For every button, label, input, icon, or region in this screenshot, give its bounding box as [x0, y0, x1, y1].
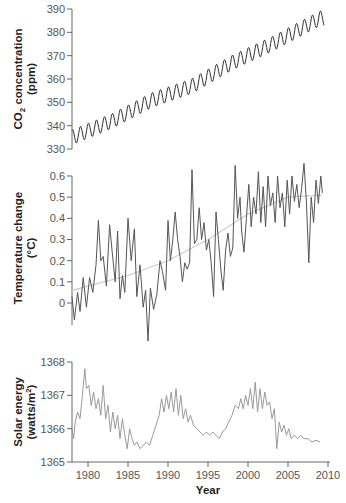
y-tick-label: 0.1: [50, 276, 65, 288]
y-tick-label: 0.5: [50, 191, 65, 203]
solar-ylabel: Solar energy: [12, 377, 24, 447]
solar-y-ticks: 1365136613671368: [41, 356, 72, 468]
x-tick-label: 2005: [276, 469, 300, 481]
x-tick-label: 1995: [196, 469, 220, 481]
solar-panel: 1365136613671368 19801985199019952000200…: [12, 356, 340, 496]
y-tick-label: 0.3: [50, 233, 65, 245]
y-tick-label: 1368: [41, 356, 65, 368]
x-tick-label: 2000: [236, 469, 260, 481]
solar-ylabel-unit: (watts/m2): [24, 384, 37, 439]
y-tick-label: 1365: [41, 456, 65, 468]
y-tick-label: 0.4: [50, 212, 65, 224]
x-tick-label: 2010: [316, 469, 340, 481]
y-tick-label: 360: [47, 73, 65, 85]
y-tick-label: 370: [47, 50, 65, 62]
x-tick-label: 1990: [156, 469, 180, 481]
y-tick-label: 330: [47, 143, 65, 155]
temp-line: [72, 163, 322, 341]
x-tick-label: 1980: [76, 469, 100, 481]
co2-line: [72, 11, 324, 143]
y-tick-label: 1366: [41, 423, 65, 435]
y-tick-label: 380: [47, 26, 65, 38]
x-ticks: 1980198519901995200020052010: [76, 462, 340, 481]
co2-y-ticks: 330340350360370380390: [47, 3, 72, 155]
solar-line: [72, 369, 320, 449]
y-tick-label: 350: [47, 96, 65, 108]
temp-y-ticks: 00.10.20.30.40.50.6: [50, 170, 72, 309]
co2-panel: 330340350360370380390 CO2 concentration …: [12, 3, 324, 155]
y-tick-label: 390: [47, 3, 65, 15]
x-axis-title: Year: [196, 484, 221, 496]
y-tick-label: 0.6: [50, 170, 65, 182]
y-tick-label: 0: [59, 297, 65, 309]
temp-ylabel: Temperature change: [12, 192, 24, 304]
y-tick-label: 0.2: [50, 255, 65, 267]
temp-trend-line: [72, 195, 322, 290]
climate-figure: 330340350360370380390 CO2 concentration …: [0, 0, 346, 503]
co2-ylabel-unit: (ppm): [25, 63, 37, 95]
x-tick-label: 1985: [116, 469, 140, 481]
y-tick-label: 340: [47, 120, 65, 132]
y-tick-label: 1367: [41, 389, 65, 401]
temp-ylabel-unit: (°C): [25, 238, 37, 259]
temperature-panel: 00.10.20.30.40.50.6 Temperature change (…: [12, 163, 322, 341]
